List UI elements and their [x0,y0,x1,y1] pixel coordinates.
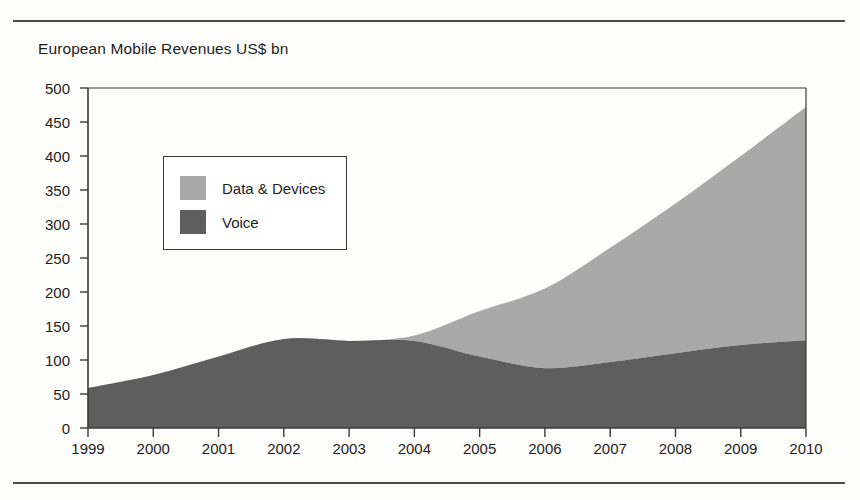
x-tick-label: 1999 [58,440,118,457]
x-tick-label: 2009 [711,440,771,457]
y-tick-label: 250 [24,250,70,267]
y-tick-label: 0 [24,420,70,437]
chart-legend: Data & Devices Voice [163,156,347,250]
x-tick-label: 2006 [515,440,575,457]
x-tick-label: 2001 [189,440,249,457]
area-voice [88,338,806,428]
y-tick-label: 450 [24,114,70,131]
legend-swatch-data-devices [180,176,206,200]
legend-label-voice: Voice [222,214,259,231]
y-tick-label: 200 [24,284,70,301]
y-tick-label: 500 [24,80,70,97]
x-tick-label: 2008 [645,440,705,457]
x-tick-label: 2000 [123,440,183,457]
y-tick-label: 300 [24,216,70,233]
x-tick-label: 2007 [580,440,640,457]
y-tick-label: 400 [24,148,70,165]
y-tick-label: 100 [24,352,70,369]
legend-item-data-devices: Data & Devices [180,176,325,200]
y-tick-label: 50 [24,386,70,403]
legend-swatch-voice [180,210,206,234]
y-tick-label: 350 [24,182,70,199]
x-tick-label: 2003 [319,440,379,457]
x-tick-label: 2002 [254,440,314,457]
area-chart-svg [0,0,860,500]
y-tick-label: 150 [24,318,70,335]
x-tick-label: 2005 [450,440,510,457]
legend-item-voice: Voice [180,210,259,234]
plot-area [0,0,860,500]
x-tick-label: 2004 [384,440,444,457]
legend-label-data-devices: Data & Devices [222,180,325,197]
figure-container: European Mobile Revenues US$ bn 05010015… [0,0,860,500]
x-tick-label: 2010 [776,440,836,457]
